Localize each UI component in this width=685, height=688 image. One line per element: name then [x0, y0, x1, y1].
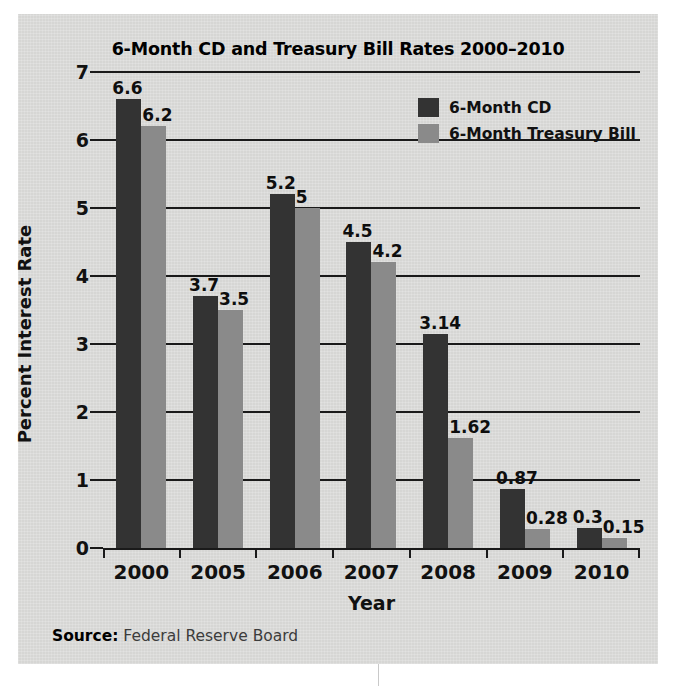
- bar-group: 3.73.52005: [180, 72, 257, 548]
- bar-value-label: 6.2: [142, 107, 172, 124]
- bar-cd[interactable]: 4.5: [346, 242, 371, 548]
- y-axis-tick: [90, 275, 103, 277]
- x-axis-tick: [562, 548, 564, 558]
- x-axis-tick-label: 2010: [563, 560, 640, 584]
- y-axis-tick-label: 0: [76, 537, 89, 559]
- bar-value-label: 6.6: [112, 80, 142, 97]
- bar-group: 5.252006: [256, 72, 333, 548]
- bar-value-label: 5: [296, 189, 308, 206]
- legend-item-cd: 6-Month CD: [418, 98, 636, 117]
- y-axis-tick-label: 5: [76, 197, 89, 219]
- bar-treasury[interactable]: 0.15: [602, 538, 627, 548]
- bar-group: 4.54.22007: [333, 72, 410, 548]
- x-axis-tick-label: 2000: [103, 560, 180, 584]
- y-axis-tick-label: 2: [76, 401, 89, 423]
- x-axis-tick: [332, 548, 334, 558]
- bar-cd[interactable]: 0.3: [577, 528, 602, 548]
- bar-treasury[interactable]: 4.2: [371, 262, 396, 548]
- bar-cd[interactable]: 0.87: [500, 489, 525, 548]
- bar-cd[interactable]: 6.6: [116, 99, 141, 548]
- x-axis-tick: [409, 548, 411, 558]
- legend-swatch-icon-cd: [418, 98, 439, 117]
- x-axis-tick: [179, 548, 181, 558]
- bar-cd[interactable]: 3.14: [423, 334, 448, 548]
- y-axis-tick-label: 7: [76, 61, 89, 83]
- y-axis-tick: [90, 411, 103, 413]
- legend-label-treasury: 6-Month Treasury Bill: [449, 125, 636, 143]
- bar-value-label: 3.5: [219, 291, 249, 308]
- y-axis-tick: [90, 207, 103, 209]
- bar-treasury[interactable]: 3.5: [218, 310, 243, 548]
- bar-cd[interactable]: 3.7: [193, 296, 218, 548]
- y-axis-tick-label: 4: [76, 265, 89, 287]
- y-axis-tick-label: 3: [76, 333, 89, 355]
- bar-group: 6.66.22000: [103, 72, 180, 548]
- y-axis-tick: [90, 71, 103, 73]
- x-axis-tick-label: 2006: [256, 560, 333, 584]
- bar-value-label: 0.15: [603, 519, 645, 536]
- bar-treasury[interactable]: 1.62: [448, 438, 473, 548]
- y-axis-title: Percent Interest Rate: [14, 194, 35, 474]
- x-axis-tick-label: 2007: [333, 560, 410, 584]
- x-axis-right-tick: [638, 548, 640, 558]
- source-note: Source: Federal Reserve Board: [52, 627, 298, 645]
- x-axis-tick: [255, 548, 257, 558]
- y-axis-tick-label: 1: [76, 469, 89, 491]
- y-axis-tick: [90, 343, 103, 345]
- bar-value-label: 4.2: [372, 243, 402, 260]
- legend-swatch-icon-treasury: [418, 124, 439, 143]
- bar-cd[interactable]: 5.2: [270, 194, 295, 548]
- bar-value-label: 3.14: [419, 315, 461, 332]
- bar-treasury[interactable]: 6.2: [141, 126, 166, 548]
- x-axis-tick-label: 2005: [180, 560, 257, 584]
- chart-title: 6-Month CD and Treasury Bill Rates 2000–…: [18, 39, 658, 59]
- y-axis-tick: [90, 479, 103, 481]
- y-axis-tick: [90, 547, 103, 549]
- bar-value-label: 5.2: [266, 175, 296, 192]
- x-axis-title: Year: [103, 592, 640, 614]
- x-axis-tick: [486, 548, 488, 558]
- bar-value-label: 0.28: [526, 510, 568, 527]
- x-axis-tick-label: 2008: [410, 560, 487, 584]
- bar-treasury[interactable]: 5: [295, 208, 320, 548]
- source-value: Federal Reserve Board: [118, 627, 298, 645]
- bar-value-label: 1.62: [449, 419, 491, 436]
- source-label: Source:: [52, 627, 118, 645]
- bar-value-label: 3.7: [189, 277, 219, 294]
- y-axis-tick: [90, 139, 103, 141]
- y-axis-tick-label: 6: [76, 129, 89, 151]
- bar-value-label: 4.5: [342, 223, 372, 240]
- bar-treasury[interactable]: 0.28: [525, 529, 550, 548]
- x-axis-line: [103, 548, 640, 550]
- x-axis-left-tick: [103, 548, 105, 558]
- bar-value-label: 0.87: [496, 470, 538, 487]
- legend: 6-Month CD 6-Month Treasury Bill: [418, 98, 636, 150]
- x-axis-tick-label: 2009: [487, 560, 564, 584]
- legend-item-treasury: 6-Month Treasury Bill: [418, 124, 636, 143]
- legend-label-cd: 6-Month CD: [449, 99, 551, 117]
- page-fold-mark: [378, 664, 379, 686]
- chart-panel: 6-Month CD and Treasury Bill Rates 2000–…: [18, 14, 658, 664]
- bar-value-label: 0.3: [573, 509, 603, 526]
